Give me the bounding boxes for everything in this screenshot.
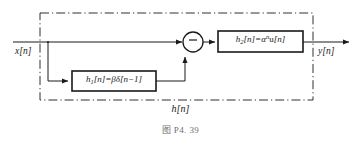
h1-arg: [n] [94, 74, 106, 84]
output-signal-label: y[n] [318, 47, 334, 57]
block-diagram-canvas [0, 0, 361, 144]
h2-exponent: n [266, 33, 269, 40]
feedback-branch-line [48, 42, 68, 81]
h1-subscript: 1 [90, 78, 93, 85]
h2-block-equation: h2[n]=αnu[n] [218, 35, 303, 44]
h2-step-arg: [n] [274, 34, 286, 44]
input-signal-label: x[n] [15, 47, 31, 57]
figure-caption: 图 P4. 39 [0, 126, 361, 135]
h2-arg: [n] [244, 34, 256, 44]
figure-container: x[n] y[n] h1[n]=βδ[n−1] h2[n]=αnu[n] h[n… [0, 0, 361, 144]
h1-output-line [156, 57, 185, 81]
h1-block-equation: h1[n]=βδ[n−1] [72, 75, 156, 84]
system-label: h[n] [0, 104, 361, 114]
h1-impulse-arg: [n−1] [120, 74, 142, 84]
summing-junction-circle [183, 32, 203, 52]
h2-subscript: 2 [240, 38, 243, 45]
